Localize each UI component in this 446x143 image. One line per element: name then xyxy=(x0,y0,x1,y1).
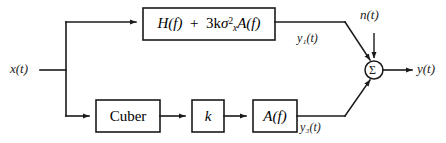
gain-k-text: k xyxy=(205,108,212,125)
gain-k-block-label: k xyxy=(192,100,224,132)
y3-signal-label: y₃(t) xyxy=(300,121,321,133)
output-signal-label: y(t) xyxy=(417,62,435,75)
wire-y3-diagonal xyxy=(345,80,370,116)
plus-operator: + xyxy=(190,15,198,31)
linear-path-block-label: H(f) + 3kσ2xA(f) xyxy=(143,8,275,40)
linear-path-expression: H(f) + 3kσ2xA(f) xyxy=(158,15,261,33)
filter-a-text: A(f) xyxy=(263,108,286,125)
cuber-text: Cuber xyxy=(110,108,147,125)
filter-a-block-label: A(f) xyxy=(253,100,297,132)
wire-y1-diagonal xyxy=(345,22,370,60)
noise-signal-label: n(t) xyxy=(360,8,379,21)
gain-coefficient: 3k xyxy=(206,15,221,31)
block-diagram-canvas: x(t) H(f) + 3kσ2xA(f) Cuber k A(f) y₁(t)… xyxy=(0,0,446,143)
sigma-summation-icon: Σ xyxy=(369,63,376,78)
input-signal-label: x(t) xyxy=(10,62,28,75)
y1-signal-label: y₁(t) xyxy=(297,32,318,44)
cuber-block-label: Cuber xyxy=(96,100,160,132)
transfer-function-a: A(f) xyxy=(237,15,260,31)
transfer-function-h: H(f) xyxy=(158,15,183,31)
